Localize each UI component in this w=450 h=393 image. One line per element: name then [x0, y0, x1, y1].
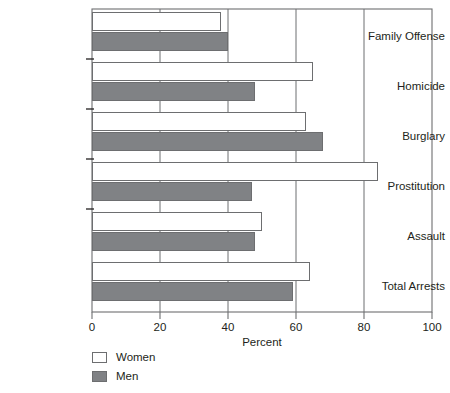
bar-homicide-women [92, 62, 313, 81]
bar-homicide-men [92, 82, 255, 101]
bar-total-arrests-men [92, 282, 293, 301]
legend-label-women: Women [116, 351, 155, 364]
x-axis-title: Percent [202, 336, 322, 349]
category-label-prostitution: Prostitution [357, 180, 445, 193]
bar-assault-women [92, 212, 262, 231]
bar-family-offense-women [92, 12, 221, 31]
bar-burglary-men [92, 132, 323, 151]
bar-family-offense-men [92, 32, 228, 51]
bar-prostitution-men [92, 182, 252, 201]
bar-assault-men [92, 232, 255, 251]
legend-swatch-men [92, 371, 107, 382]
xtick-label-100: 100 [412, 321, 450, 334]
category-label-burglary: Burglary [357, 130, 445, 143]
legend-swatch-women [92, 352, 107, 363]
category-label-family-offense: Family Offense [357, 30, 445, 43]
xtick-label-0: 0 [72, 321, 112, 334]
xtick-label-60: 60 [276, 321, 316, 334]
category-label-total-arrests: Total Arrests [357, 280, 445, 293]
x-axis-ticks [92, 312, 432, 319]
legend-label-men: Men [116, 370, 138, 383]
xtick-label-40: 40 [208, 321, 248, 334]
bar-prostitution-women [92, 162, 378, 181]
category-label-assault: Assault [357, 230, 445, 243]
bar-burglary-women [92, 112, 306, 131]
category-label-homicide: Homicide [357, 80, 445, 93]
xtick-label-80: 80 [344, 321, 384, 334]
bar-total-arrests-women [92, 262, 310, 281]
xtick-label-20: 20 [140, 321, 180, 334]
